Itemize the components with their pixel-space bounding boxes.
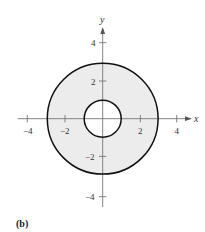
y-tick-label: 2 [91, 77, 96, 87]
x-tick-label: −4 [23, 126, 33, 136]
annulus-chart: −4 −2 2 4 4 2 −2 −4 x y [0, 0, 205, 232]
x-tick-label: −2 [60, 126, 70, 136]
panel-label: (b) [16, 218, 28, 229]
y-axis-label: y [99, 14, 105, 25]
x-tick-label: 2 [138, 126, 143, 136]
y-tick-label: 4 [91, 38, 96, 48]
x-axis-arrow-icon [185, 116, 192, 121]
y-axis-arrow-icon [100, 27, 105, 34]
x-axis-label: x [193, 113, 199, 124]
x-tick-label: 4 [175, 126, 180, 136]
y-tick-label: −4 [85, 192, 95, 202]
y-tick-label: −2 [85, 152, 95, 162]
